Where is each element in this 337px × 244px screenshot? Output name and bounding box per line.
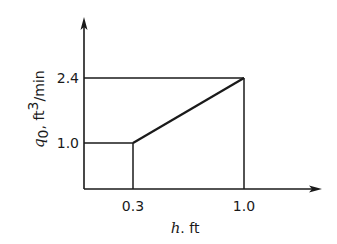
x-tick-label: 1.0 xyxy=(233,198,255,214)
chart: 0.3 1.0 1.0 2.4 h. ft q0, ft3/min xyxy=(0,0,337,244)
y-tick-label: 1.0 xyxy=(57,135,79,151)
y-tick-label: 2.4 xyxy=(57,70,79,86)
y-axis-label: q0, ft3/min xyxy=(25,70,51,148)
x-tick-label: 0.3 xyxy=(122,198,144,214)
data-line xyxy=(133,78,244,143)
x-axis-label: h. ft xyxy=(171,219,200,237)
